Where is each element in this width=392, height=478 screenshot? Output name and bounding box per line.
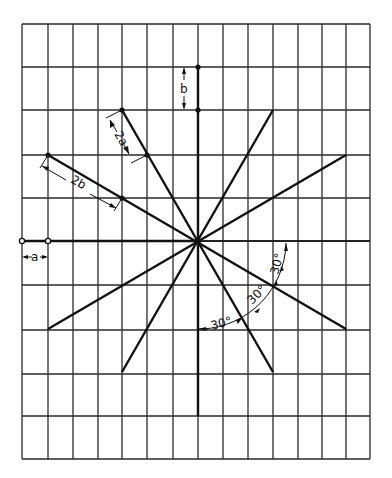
center-point — [195, 238, 201, 244]
label-2a: 2a — [111, 129, 131, 149]
point-a-start — [19, 238, 24, 243]
label-angle-3: 30° — [267, 252, 286, 276]
dimension-a: a — [22, 250, 48, 264]
label-b: b — [180, 82, 188, 96]
point-b-top — [195, 64, 200, 69]
point-b-bottom — [195, 107, 200, 112]
point-a-end — [45, 238, 50, 243]
dimension-b: b — [180, 67, 188, 110]
dimension-2b: 2b — [40, 155, 122, 211]
label-a: a — [31, 250, 38, 264]
construction-diagram: a b 2a 2b 30° 30° — [0, 0, 392, 478]
label-2b: 2b — [69, 172, 89, 192]
